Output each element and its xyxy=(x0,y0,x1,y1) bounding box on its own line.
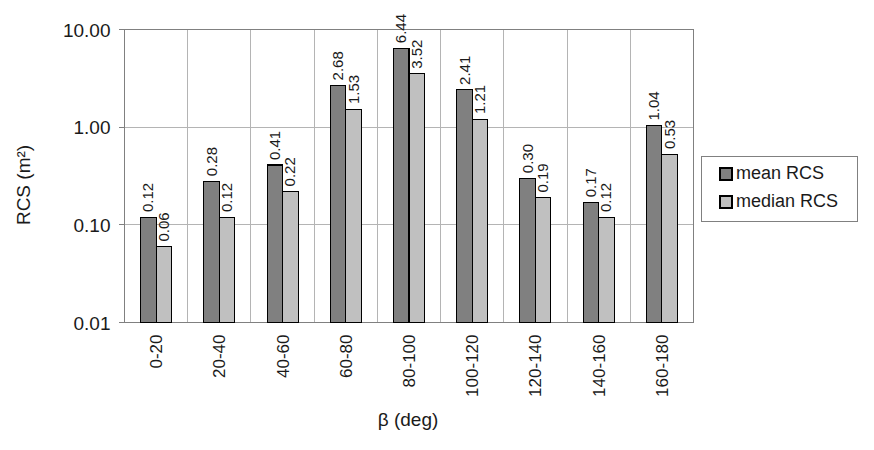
legend-swatch-mean-rcs xyxy=(720,168,732,180)
bar-median-rcs-140-160 xyxy=(599,217,615,322)
value-label: 0.12 xyxy=(597,183,614,212)
y-axis-tick-label: 0.01 xyxy=(74,313,111,334)
bar-median-rcs-120-140 xyxy=(535,198,551,323)
bar-mean-rcs-0-20 xyxy=(141,217,157,322)
bar-mean-rcs-80-100 xyxy=(394,48,410,322)
bar-mean-rcs-100-120 xyxy=(457,90,473,323)
bar-mean-rcs-140-160 xyxy=(583,202,599,322)
bar-median-rcs-20-40 xyxy=(219,217,235,322)
value-label: 2.68 xyxy=(329,51,346,80)
y-axis-tick-label: 1.00 xyxy=(74,117,111,138)
x-axis-category-label: 120-140 xyxy=(526,335,545,397)
bar-mean-rcs-20-40 xyxy=(204,181,220,322)
legend-label-mean-rcs: mean RCS xyxy=(736,163,824,183)
x-axis-category-label: 80-100 xyxy=(400,335,419,388)
value-label: 3.52 xyxy=(408,40,425,69)
value-label: 0.19 xyxy=(534,163,551,192)
x-axis-title: β (deg) xyxy=(378,409,439,430)
x-axis-category-label: 20-40 xyxy=(210,335,229,378)
legend-swatch-median-rcs xyxy=(720,196,732,208)
value-label: 0.12 xyxy=(139,183,156,212)
bar-mean-rcs-40-60 xyxy=(267,165,283,323)
bar-median-rcs-80-100 xyxy=(409,74,425,323)
x-axis-category-label: 0-20 xyxy=(147,335,166,369)
x-axis-category-label: 60-80 xyxy=(337,335,356,378)
value-label: 1.21 xyxy=(471,85,488,114)
value-label: 0.17 xyxy=(582,168,599,197)
value-label: 0.28 xyxy=(203,147,220,176)
bar-median-rcs-40-60 xyxy=(283,191,299,322)
rcs-bar-chart: 10.001.000.100.01 0.120.060.280.120.410.… xyxy=(0,0,874,450)
bar-mean-rcs-60-80 xyxy=(330,85,346,322)
bar-mean-rcs-120-140 xyxy=(520,178,536,322)
value-label: 0.30 xyxy=(519,144,536,173)
bar-median-rcs-160-180 xyxy=(662,154,678,322)
value-label: 0.41 xyxy=(266,131,283,160)
bar-median-rcs-60-80 xyxy=(346,109,362,322)
chart-canvas: 10.001.000.100.01 0.120.060.280.120.410.… xyxy=(0,0,874,450)
y-axis-tick-label: 10.00 xyxy=(63,20,111,41)
value-label: 1.04 xyxy=(645,91,662,120)
value-label: 1.53 xyxy=(345,75,362,104)
bar-mean-rcs-160-180 xyxy=(646,126,662,323)
x-axis-category-label: 40-60 xyxy=(274,335,293,378)
chart-legend: mean RCSmedian RCS xyxy=(701,156,857,221)
value-label: 2.41 xyxy=(456,56,473,85)
x-axis-category-label: 140-160 xyxy=(590,335,609,397)
bar-median-rcs-0-20 xyxy=(156,247,172,323)
x-axis-category-label: 100-120 xyxy=(463,335,482,397)
value-label: 0.12 xyxy=(218,183,235,212)
x-axis-category-label: 160-180 xyxy=(653,335,672,397)
y-axis-title: RCS (m²) xyxy=(13,145,34,225)
legend-label-median-rcs: median RCS xyxy=(736,191,838,211)
value-label: 6.44 xyxy=(392,14,409,43)
value-label: 0.22 xyxy=(281,157,298,186)
value-label: 0.53 xyxy=(661,120,678,149)
value-label: 0.06 xyxy=(155,212,172,241)
bar-median-rcs-100-120 xyxy=(472,119,488,322)
y-axis-tick-label: 0.10 xyxy=(74,215,111,236)
